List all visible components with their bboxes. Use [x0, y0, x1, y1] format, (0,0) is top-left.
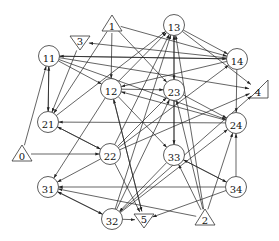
node-24-label: 24 [230, 120, 243, 131]
edge-14-to-24 [236, 70, 237, 113]
node-4: 4 [250, 80, 268, 98]
node-34: 34 [226, 177, 247, 198]
node-34-label: 34 [230, 184, 243, 195]
edge-11-to-4 [59, 58, 249, 89]
node-11-label: 11 [43, 53, 56, 64]
node-22: 22 [100, 144, 121, 165]
node-31: 31 [38, 177, 59, 198]
node-13: 13 [164, 15, 185, 36]
node-23: 23 [164, 80, 185, 101]
node-3: 3 [70, 36, 90, 51]
edge-1-to-12 [111, 33, 112, 79]
edge-24-to-21 [59, 122, 226, 123]
node-12-label: 12 [105, 86, 118, 97]
edge-34-to-5 [153, 191, 227, 218]
node-24: 24 [226, 113, 247, 134]
node-2-label: 2 [202, 215, 208, 226]
edge-12-to-23 [122, 89, 164, 90]
node-1: 1 [102, 15, 122, 32]
node-1-label: 1 [109, 21, 115, 32]
node-5: 5 [134, 214, 154, 229]
node-14-label: 14 [231, 56, 244, 67]
edge-22-to-14 [118, 65, 228, 147]
edge-32-to-31 [57, 192, 102, 215]
node-22-label: 22 [104, 151, 117, 162]
edge-32-to-23 [117, 100, 170, 210]
node-21-label: 21 [42, 119, 55, 130]
node-31-label: 31 [42, 184, 55, 195]
node-23-label: 23 [168, 87, 181, 98]
node-33-label: 33 [168, 152, 181, 163]
node-11: 11 [39, 46, 60, 67]
node-0-label: 0 [19, 151, 25, 162]
node-33: 33 [164, 145, 185, 166]
edge-32-to-13 [115, 35, 171, 209]
node-21: 21 [38, 112, 59, 133]
node-4-label: 4 [255, 87, 261, 98]
node-12: 12 [101, 79, 122, 100]
edge-2-to-24 [208, 133, 233, 209]
node-14: 14 [227, 49, 248, 70]
edge-22-to-21 [57, 127, 100, 149]
node-5-label: 5 [141, 214, 147, 225]
node-32: 32 [102, 209, 123, 230]
directed-graph: 012345111213142122232431323334 [0, 0, 279, 241]
edge-0-to-11 [24, 66, 46, 145]
node-3-label: 3 [77, 36, 83, 47]
edge-2-to-13 [176, 35, 204, 209]
edge-21-to-11 [48, 67, 49, 112]
node-13-label: 13 [168, 22, 181, 33]
node-0: 0 [12, 145, 32, 162]
node-32-label: 32 [106, 216, 119, 227]
node-2: 2 [195, 209, 215, 226]
